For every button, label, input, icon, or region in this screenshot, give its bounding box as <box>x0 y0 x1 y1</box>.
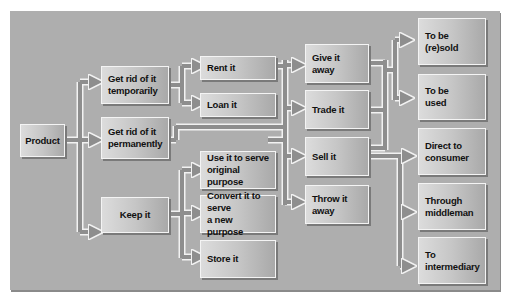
node-label: Through middleman <box>425 195 473 219</box>
node-label: Get rid of it temporarily <box>108 73 158 97</box>
node-label: Trade it <box>312 104 344 116</box>
node-use-original-purpose: Use it to serve original purpose <box>200 151 276 189</box>
node-get-rid-permanently: Get rid of it permanently <box>101 117 169 159</box>
node-label: Use it to serve original purpose <box>207 152 269 188</box>
node-label: Get rid of it permanently <box>108 126 162 150</box>
node-label: Rent it <box>207 62 235 74</box>
node-rent-it: Rent it <box>200 56 276 80</box>
node-trade-it: Trade it <box>305 90 369 129</box>
node-store-it: Store it <box>200 240 276 278</box>
node-keep-it: Keep it <box>101 197 169 233</box>
node-throw-it-away: Throw it away <box>305 185 369 224</box>
node-label: Throw it away <box>312 193 362 217</box>
node-product: Product <box>20 124 65 157</box>
node-give-it-away: Give it away <box>305 44 369 83</box>
node-label: Convert it to serve a new purpose <box>207 190 269 238</box>
node-label: To be (re)sold <box>425 30 458 54</box>
node-label: Keep it <box>120 209 150 221</box>
node-label: Loan it <box>207 99 237 111</box>
node-to-be-resold: To be (re)sold <box>418 18 486 65</box>
node-label: Direct to consumer <box>425 140 469 164</box>
node-convert-new-purpose: Convert it to serve a new purpose <box>200 195 276 233</box>
node-direct-to-consumer: Direct to consumer <box>418 128 486 175</box>
node-label: To intermediary <box>425 249 480 273</box>
node-through-middleman: Through middleman <box>418 183 486 230</box>
node-get-rid-temporarily: Get rid of it temporarily <box>101 66 169 104</box>
node-to-intermediary: To intermediary <box>418 237 486 284</box>
node-label: Sell it <box>312 151 336 163</box>
node-label: Product <box>25 135 60 147</box>
node-label: Give it away <box>312 52 362 76</box>
node-to-be-used: To be used <box>418 74 486 120</box>
node-label: Store it <box>207 253 238 265</box>
node-loan-it: Loan it <box>200 93 276 117</box>
node-label: To be used <box>425 85 449 109</box>
node-sell-it: Sell it <box>305 137 369 176</box>
